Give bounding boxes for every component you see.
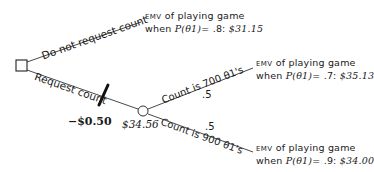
outcome-no-request: EMV of playing game when P(θ1)= .8: $31.… — [145, 10, 263, 35]
decision-node — [16, 60, 27, 71]
emv-value: $31.15 — [229, 23, 263, 34]
probability-count-900: .5 — [205, 121, 215, 133]
emv-value: $34.00 — [340, 155, 374, 166]
emv-value: $35.13 — [340, 70, 374, 81]
chance-node — [138, 106, 148, 116]
probability-count-700: .5 — [202, 89, 212, 101]
outcome-count-900: EMV of playing game when P(θ1)= .9: $34.… — [256, 142, 374, 167]
chance-node-value: $34.56 — [122, 118, 159, 130]
request-cost: −$0.50 — [68, 115, 112, 128]
outcome-count-700: EMV of playing game when P(θ1)= .7: $35.… — [256, 57, 374, 82]
